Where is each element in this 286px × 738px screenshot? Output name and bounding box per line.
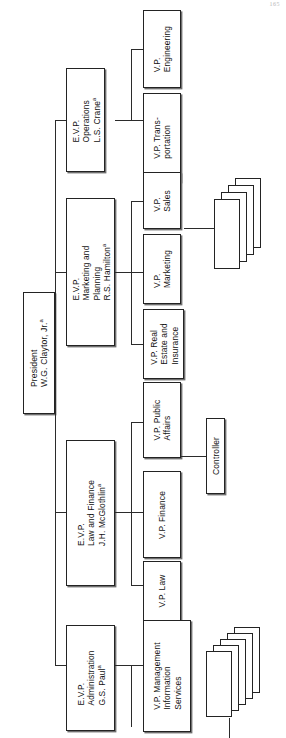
org-node-transportation[interactable]: V.P. Trans- portation (143, 93, 181, 182)
org-chart-canvas: 165 President W.G. Claytor, Jr.a E.V.P. … (0, 0, 286, 738)
connector-finance (131, 512, 143, 513)
branch-administration (55, 665, 66, 666)
org-node-marketing-planning-label: E.V.P. Marketing and Planning R.S. Hamil… (70, 243, 111, 300)
org-node-finance[interactable]: V.P. Finance (143, 471, 181, 558)
stack-sheet (214, 199, 240, 269)
org-node-law-finance[interactable]: E.V.P. Law and Finance J.H. McGlothlina (66, 440, 115, 586)
connector-public-affairs (131, 422, 143, 423)
org-node-real-estate-label: V.P. Real Estate and Insurance (148, 323, 179, 365)
spine-law-finance (131, 422, 132, 585)
org-node-law-label: V.P. Law (157, 575, 167, 608)
connector-engineering (131, 49, 143, 50)
connector-transportation (131, 120, 143, 121)
org-node-sales-label: V.P. Sales (152, 190, 173, 212)
org-node-transportation-label: V.P. Trans- portation (152, 117, 173, 159)
connector-real-estate (131, 344, 143, 345)
marketing-units-stack[interactable] (214, 178, 272, 278)
org-node-marketing-planning[interactable]: E.V.P. Marketing and Planning R.S. Hamil… (66, 198, 115, 346)
connector-marketing-planning-out (115, 272, 131, 273)
org-node-marketing-label: V.P. Marketing (152, 250, 173, 288)
org-node-operations-label: E.V.P. Operations L.S. Cranea (70, 97, 101, 142)
org-node-finance-label: V.P. Finance (157, 491, 167, 539)
connector-sales (131, 201, 143, 202)
stub-president (55, 353, 56, 354)
org-node-public-affairs[interactable]: V.P. Public Affairs (143, 382, 181, 458)
org-node-president[interactable]: President W.G. Claytor, Jr.a (23, 292, 55, 414)
org-node-administration-label: E.V.P. Administration G.S. Paula (75, 650, 106, 705)
org-node-law-finance-label: E.V.P. Law and Finance J.H. McGlothlina (75, 480, 106, 546)
org-node-controller-label: Controller (210, 437, 220, 475)
page-folio: 165 (270, 1, 281, 7)
org-node-mis[interactable]: V.P. Management Information Services (143, 620, 191, 732)
mis-units-stack[interactable] (206, 627, 272, 722)
org-node-mis-label: V.P. Management Information Services (152, 642, 183, 709)
spine-administration (131, 665, 132, 727)
connector-law (131, 585, 143, 586)
connector-controller (181, 456, 206, 457)
org-node-public-affairs-label: V.P. Public Affairs (152, 400, 173, 441)
branch-marketing-planning (55, 272, 66, 273)
org-node-marketing[interactable]: V.P. Marketing (143, 234, 181, 304)
org-node-administration[interactable]: E.V.P. Administration G.S. Paula (66, 625, 115, 731)
branch-law-finance (55, 512, 66, 513)
org-node-engineering[interactable]: V.P. Engineering (143, 10, 181, 88)
org-node-law[interactable]: V.P. Law (143, 561, 181, 621)
connector-law-finance-out (115, 512, 131, 513)
trunk-president (55, 120, 56, 665)
spine-operations (131, 49, 132, 121)
org-node-sales[interactable]: V.P. Sales (143, 172, 181, 229)
org-node-engineering-label: V.P. Engineering (152, 26, 173, 72)
connector-administration-out (115, 665, 131, 666)
stack-sheet (206, 651, 232, 717)
org-node-president-label: President W.G. Claytor, Jr.a (29, 319, 50, 387)
connector-mis (131, 665, 143, 666)
org-node-real-estate[interactable]: V.P. Real Estate and Insurance (143, 309, 184, 379)
connector-marketing-units-stack (184, 228, 214, 229)
connector-operations-out (115, 120, 131, 121)
org-node-controller[interactable]: Controller (206, 418, 225, 494)
org-node-operations[interactable]: E.V.P. Operations L.S. Cranea (66, 68, 105, 172)
branch-operations (55, 120, 66, 121)
connector-marketing (131, 272, 143, 273)
